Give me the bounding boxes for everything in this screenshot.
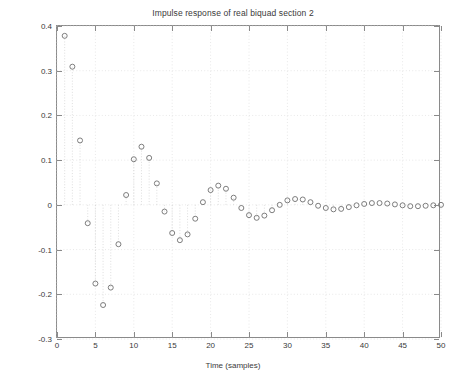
y-tick-label: 0.2: [41, 111, 52, 120]
y-tick-mark: [57, 115, 62, 116]
y-tick-mark: [434, 115, 439, 116]
x-tick-label: 35: [321, 341, 330, 350]
data-point-marker: [408, 204, 413, 209]
data-point-marker: [415, 204, 420, 209]
x-tick-mark: [326, 332, 327, 337]
x-axis-label: Time (samples): [0, 361, 466, 370]
x-tick-label: 25: [245, 341, 254, 350]
y-tick-mark: [434, 71, 439, 72]
data-markers: [62, 33, 443, 307]
data-point-marker: [85, 221, 90, 226]
y-tick-label: -0.1: [38, 245, 52, 254]
y-tick-mark: [434, 160, 439, 161]
x-tick-mark: [172, 332, 173, 337]
data-point-marker: [385, 201, 390, 206]
y-tick-mark: [434, 294, 439, 295]
x-tick-mark: [57, 332, 58, 337]
data-point-marker: [162, 209, 167, 214]
x-tick-mark: [287, 332, 288, 337]
y-tick-mark: [434, 250, 439, 251]
data-point-marker: [392, 202, 397, 207]
x-tick-mark: [364, 332, 365, 337]
y-tick-label: 0.4: [41, 22, 52, 31]
y-tick-mark: [434, 339, 439, 340]
y-tick-mark: [57, 205, 62, 206]
y-tick-label: 0.1: [41, 156, 52, 165]
chart-plot-area: [57, 26, 441, 339]
x-tick-mark: [441, 26, 442, 31]
data-point-marker: [369, 201, 374, 206]
y-tick-mark: [434, 26, 439, 27]
data-point-marker: [316, 203, 321, 208]
y-tick-label: 0: [48, 200, 52, 209]
y-tick-label: -0.2: [38, 290, 52, 299]
chart-title: Impulse response of real biquad section …: [0, 8, 466, 18]
y-tick-mark: [57, 339, 62, 340]
x-tick-mark: [95, 26, 96, 31]
x-tick-label: 0: [55, 341, 59, 350]
plot-axes: -0.3-0.2-0.100.10.20.30.4 05101520253035…: [56, 25, 440, 338]
y-tick-mark: [57, 294, 62, 295]
stem-lines: [65, 36, 349, 305]
x-tick-mark: [211, 332, 212, 337]
y-tick-label: -0.3: [38, 335, 52, 344]
x-tick-mark: [403, 332, 404, 337]
x-tick-mark: [403, 26, 404, 31]
x-tick-label: 45: [398, 341, 407, 350]
x-tick-label: 10: [129, 341, 138, 350]
x-tick-mark: [326, 26, 327, 31]
x-tick-label: 40: [360, 341, 369, 350]
x-tick-mark: [134, 26, 135, 31]
x-tick-label: 20: [206, 341, 215, 350]
x-tick-mark: [364, 26, 365, 31]
data-point-marker: [423, 203, 428, 208]
x-tick-mark: [211, 26, 212, 31]
data-point-marker: [124, 193, 129, 198]
x-tick-mark: [134, 332, 135, 337]
data-point-marker: [62, 33, 67, 38]
x-tick-mark: [57, 26, 58, 31]
x-tick-label: 5: [93, 341, 97, 350]
data-point-marker: [177, 238, 182, 243]
data-point-marker: [78, 138, 83, 143]
gridlines: [57, 26, 441, 339]
x-tick-mark: [172, 26, 173, 31]
x-tick-mark: [287, 26, 288, 31]
x-tick-mark: [249, 26, 250, 31]
x-tick-mark: [95, 332, 96, 337]
data-point-marker: [354, 203, 359, 208]
x-tick-mark: [441, 332, 442, 337]
data-point-marker: [108, 285, 113, 290]
y-tick-mark: [434, 205, 439, 206]
y-tick-mark: [57, 160, 62, 161]
data-point-marker: [377, 201, 382, 206]
y-tick-mark: [57, 250, 62, 251]
x-tick-label: 50: [437, 341, 446, 350]
y-tick-mark: [57, 71, 62, 72]
x-tick-mark: [249, 332, 250, 337]
figure-canvas: Impulse response of real biquad section …: [0, 0, 466, 377]
y-tick-label: 0.3: [41, 66, 52, 75]
x-tick-label: 15: [168, 341, 177, 350]
x-tick-label: 30: [283, 341, 292, 350]
